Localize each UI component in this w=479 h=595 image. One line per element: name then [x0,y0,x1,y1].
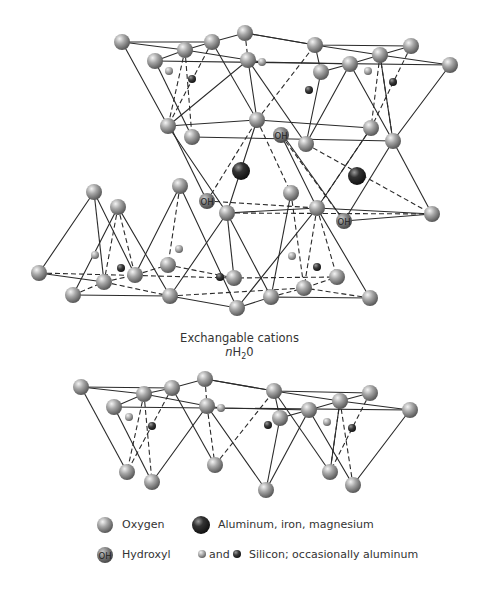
oxygen-atom [403,38,419,54]
legend-hydroxyl-label: Hydroxyl [122,548,171,561]
silicon-atom [323,418,331,426]
silicon-atom [125,413,133,421]
hydroxyl-legend-icon: OH [97,547,113,563]
oxygen-atom [332,393,348,409]
oxygen-atom [204,34,220,50]
oxygen-legend-icon [97,517,113,533]
silicon-atom [216,273,224,281]
metal-atom [232,162,250,180]
oxygen-atom [226,270,242,286]
oxygen-atom [296,280,312,296]
oxygen-atom [363,120,379,136]
oxygen-atom [237,25,253,41]
silicon-atom [364,67,372,75]
oxygen-atom [240,52,256,68]
oxygen-atom [301,402,317,418]
oxygen-atom [309,200,325,216]
oxygen-atom [298,136,314,152]
silicon-atom [188,75,196,83]
oxygen-atom [362,385,378,401]
silicon-atom [389,78,397,86]
oxygen-atom [385,133,401,149]
silicon-atom [175,245,183,253]
oxygen-atom [329,269,345,285]
legend-and-label: and [209,548,230,561]
oxygen-atom [114,34,130,50]
oxygen-atom [263,289,279,305]
silicon-atom [148,422,156,430]
oxygen-atom [162,288,178,304]
hydroxyl-atom: OH [199,193,215,209]
oxygen-atom [272,410,288,426]
oxygen-atom [258,482,274,498]
oxygen-atom [249,112,265,128]
oxygen-atom [110,199,126,215]
silicon-atom [305,86,313,94]
bottom-layer-atoms [73,371,418,498]
legend-metal-label: Aluminum, iron, magnesium [218,518,374,531]
oxygen-atom [172,178,188,194]
silicon-atom [91,251,99,259]
oxygen-atom [144,474,160,490]
oxygen-atom [31,265,47,281]
svg-text:OH: OH [200,197,213,207]
oxygen-atom [342,56,358,72]
oxygen-atom [119,464,135,480]
interlayer-caption: Exchangable cations nH20 [0,331,479,364]
o-text: 0 [246,345,253,359]
oxygen-atom [229,300,245,316]
hydroxyl-atom: OH [273,127,289,143]
oxygen-atom [402,402,418,418]
legend-silicon-label: Silicon; occasionally aluminum [249,548,418,561]
metal-legend-icon [192,516,210,534]
oxygen-atom [362,290,378,306]
oxygen-atom [313,64,329,80]
oxygen-atom [197,371,213,387]
oxygen-atom [160,118,176,134]
silicon-atom [258,58,266,66]
oxygen-atom [442,57,458,73]
silicon-atom [217,404,225,412]
oxygen-atom [372,47,388,63]
interlayer-caption-line2: nH20 [0,345,479,364]
silicon-atom [313,263,321,271]
oxygen-atom [322,464,338,480]
oxygen-atom [219,205,235,221]
oxygen-atom [106,399,122,415]
oxygen-atom [73,379,89,395]
silicon-dark-legend-icon [233,550,241,558]
n-italic: n [225,345,232,359]
oxygen-atom [424,206,440,222]
legend-oxygen-label: Oxygen [122,518,164,531]
oxygen-atom [86,184,102,200]
oxygen-atom [164,380,180,396]
svg-text:OH: OH [98,551,111,561]
h-text: H [233,345,242,359]
oxygen-atom [283,185,299,201]
svg-text:OH: OH [337,217,350,227]
oxygen-atom [307,37,323,53]
oxygen-atom [96,274,112,290]
silicon-atom [348,424,356,432]
oxygen-atom [207,457,223,473]
oxygen-atom [147,53,163,69]
silicon-atom [165,67,173,75]
silicon-light-legend-icon [198,550,206,558]
metal-atom [348,167,366,185]
clay-structure-diagram: OH OH OH [0,0,479,595]
silicon-atom [288,252,296,260]
oxygen-atom [177,42,193,58]
oxygen-atom [65,287,81,303]
silicon-atom [264,421,272,429]
oxygen-atom [160,257,176,273]
oxygen-atom [345,477,361,493]
interlayer-caption-line1: Exchangable cations [0,331,479,345]
hydroxyl-atom: OH [336,213,352,229]
oxygen-atom [127,267,143,283]
oxygen-atom [184,129,200,145]
svg-text:OH: OH [274,131,287,141]
oxygen-atom [136,386,152,402]
silicon-atom [117,264,125,272]
oxygen-atom [199,398,215,414]
top-layer-atoms: OH [114,25,458,152]
